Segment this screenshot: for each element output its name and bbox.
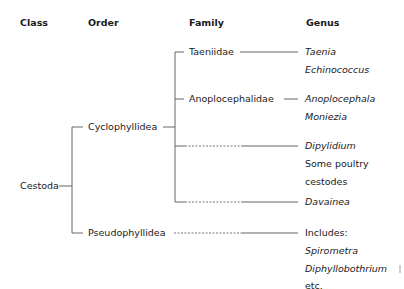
genus-taenia: Taenia — [305, 46, 336, 58]
genus-note-some-poultry: Some poultry — [305, 158, 369, 170]
genus-anoplocephala: Anoplocephala — [305, 93, 375, 105]
class-node-cestoda: Cestoda — [20, 180, 59, 192]
genus-echinococcus: Echinococcus — [305, 64, 369, 76]
genus-spirometra: Spirometra — [305, 245, 358, 257]
genus-moniezia: Moniezia — [305, 111, 347, 123]
order-node-pseudophyllidea: Pseudophyllidea — [88, 227, 166, 239]
family-node-taeniidae: Taeniidae — [189, 46, 234, 58]
genus-note-cestodes: cestodes — [305, 176, 347, 188]
order-node-cyclophyllidea: Cyclophyllidea — [88, 121, 157, 133]
column-header-genus: Genus — [306, 17, 339, 29]
column-header-order: Order — [88, 17, 119, 29]
genus-includes-label: Includes: — [305, 227, 348, 239]
genus-davainea: Davainea — [305, 196, 350, 208]
column-header-family: Family — [189, 17, 224, 29]
genus-dipylidium: Dipylidium — [305, 140, 356, 152]
family-node-anoplocephalidae: Anoplocephalidae — [189, 93, 274, 105]
genus-etc: etc. — [305, 280, 323, 289]
column-header-class: Class — [20, 17, 48, 29]
genus-diphyllobothrium: Diphyllobothrium — [305, 263, 387, 275]
